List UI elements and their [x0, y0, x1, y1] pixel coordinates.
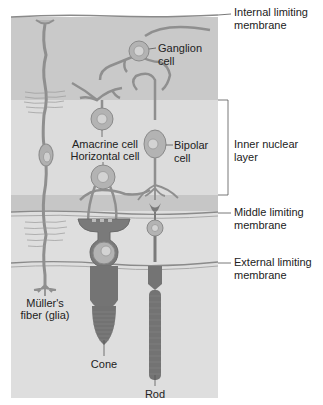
- inner-nuclear-bracket: [218, 100, 228, 195]
- label-line: Cone: [84, 358, 124, 370]
- rod-cell: [147, 203, 163, 386]
- internal-limiting-membrane: [11, 15, 218, 17]
- bipolar-cell-label: Bipolar cell: [174, 139, 208, 165]
- rod-label: Rod: [137, 388, 173, 400]
- label-line: Inner nuclear: [234, 138, 298, 151]
- internal-limiting-membrane-label: Internal limiting membrane: [234, 6, 308, 32]
- label-line: Middle limiting: [234, 206, 304, 219]
- amacrine-cell-label: Amacrine cell: [66, 138, 144, 150]
- middle-limiting-membrane-label: Middle limiting membrane: [234, 206, 304, 232]
- label-line: membrane: [234, 269, 312, 282]
- label-line: fiber (glia): [14, 309, 76, 321]
- cone-label: Cone: [84, 358, 124, 370]
- ganglion-cell-label: Ganglion cell: [158, 42, 202, 68]
- label-line: layer: [234, 151, 298, 164]
- label-line: cell: [174, 152, 208, 165]
- horizontal-cell-label: Horizontal cell: [66, 150, 144, 162]
- inner-nuclear-layer-label: Inner nuclear layer: [234, 138, 298, 164]
- label-line: Müller's: [14, 297, 76, 309]
- label-line: Bipolar: [174, 139, 208, 152]
- label-line: membrane: [234, 19, 308, 32]
- label-line: cell: [158, 55, 202, 68]
- label-line: membrane: [234, 219, 304, 232]
- label-line: Internal limiting: [234, 6, 308, 19]
- label-line: Rod: [137, 388, 173, 400]
- amacrine-horizontal-label: Amacrine cell Horizontal cell: [66, 138, 144, 162]
- label-line: External limiting: [234, 256, 312, 269]
- external-limiting-membrane-label: External limiting membrane: [234, 256, 312, 282]
- label-line: Ganglion: [158, 42, 202, 55]
- muller-fiber-label: Müller's fiber (glia): [14, 297, 76, 321]
- internal-membrane-leader: [218, 14, 231, 15]
